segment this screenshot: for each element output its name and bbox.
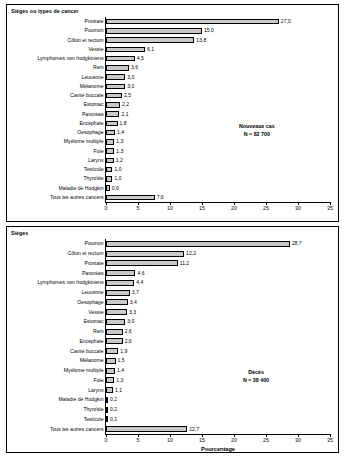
bar-category-label: Myélome multiple xyxy=(64,139,104,144)
bar-category-label: Rein xyxy=(93,329,103,334)
bar xyxy=(106,47,145,53)
bar xyxy=(106,121,118,127)
bar-value-label: 3,0 xyxy=(127,75,134,80)
bar-value-label: 15,0 xyxy=(204,28,214,33)
bar-row: Rein2,6 xyxy=(106,327,330,337)
bar xyxy=(106,65,129,71)
bar-category-label: Oesophage xyxy=(77,130,103,135)
bar xyxy=(106,397,108,403)
bar xyxy=(106,387,113,393)
bar-value-label: 1,9 xyxy=(120,349,127,354)
bar xyxy=(106,139,114,145)
bar-category-label: Leucémie xyxy=(81,75,103,80)
bar-category-label: Testicule xyxy=(84,417,104,422)
bar xyxy=(106,195,155,201)
bar-row: Rein3,6 xyxy=(106,63,330,72)
bar-category-label: Poumon xyxy=(85,241,104,246)
bar-value-label: 7,6 xyxy=(157,195,164,200)
bar-row: Myélome multiple1,4 xyxy=(106,366,330,376)
bar-value-label: 6,1 xyxy=(147,47,154,52)
bar-value-label: 3,6 xyxy=(131,65,138,70)
x-tick-label: 5 xyxy=(137,437,140,443)
bar-category-label: Vessie xyxy=(88,47,103,52)
bar xyxy=(106,176,112,182)
bar-category-label: Maladie de Hodgkin xyxy=(58,186,103,191)
x-tick-label: 10 xyxy=(167,205,173,211)
bar-row: Leucémie3,7 xyxy=(106,288,330,298)
bar-category-label: Pancréas xyxy=(82,271,104,276)
bar xyxy=(106,102,120,108)
x-axis-title-mortality: Pourcentage xyxy=(106,446,330,452)
bar-row: Estomac2,2 xyxy=(106,100,330,109)
bar-row: Pancréas2,1 xyxy=(106,110,330,119)
bar-category-label: Cavité buccale xyxy=(70,349,103,354)
bar-value-label: 1,0 xyxy=(114,167,121,172)
bar-category-label: Côlon et rectum xyxy=(68,38,104,43)
bar-category-label: Testicule xyxy=(84,167,104,172)
bar xyxy=(106,130,115,136)
bar xyxy=(106,56,135,62)
bar-category-label: Cavité buccale xyxy=(70,93,103,98)
bar-value-label: 3,3 xyxy=(129,310,136,315)
annotation-line: Décès xyxy=(243,369,269,377)
chart-title-incidence: Sièges ou types de cancer xyxy=(11,8,79,14)
bar-value-label: 2,1 xyxy=(121,112,128,117)
bar-category-label: Thyroïde xyxy=(83,176,103,181)
x-tick-label: 25 xyxy=(263,437,269,443)
bar xyxy=(106,148,114,154)
bar-value-label: 12,7 xyxy=(189,427,199,432)
bar xyxy=(106,28,202,34)
bar-value-label: 1,3 xyxy=(116,149,123,154)
bar xyxy=(106,416,108,422)
bar-category-label: Rein xyxy=(93,65,103,70)
bar-category-label: Tous les autres cancers xyxy=(50,427,104,432)
chart-title-mortality: Sièges xyxy=(11,230,28,236)
bar xyxy=(106,270,135,276)
bar-row: Poumon15,0 xyxy=(106,26,330,35)
bar-value-label: 1,5 xyxy=(118,358,125,363)
bar-row: Côlon et rectum12,2 xyxy=(106,249,330,259)
bar-value-label: 1,4 xyxy=(117,130,124,135)
bar xyxy=(106,290,130,296)
annotation-line: N = 38 400 xyxy=(243,377,269,385)
bar-category-label: Lymphomes non hodgkiniens xyxy=(37,56,103,61)
plot-area-mortality: Poumon28,7Côlon et rectum12,2Prostate11,… xyxy=(105,239,330,435)
bar-category-label: Lymphomes non hodgkiniens xyxy=(37,280,103,285)
bar-category-label: Mélanome xyxy=(80,358,104,363)
bar-category-label: Thyroïde xyxy=(83,407,103,412)
bar-category-label: Côlon et rectum xyxy=(68,251,104,256)
bar xyxy=(106,251,184,257)
bar-value-label: 1,1 xyxy=(115,388,122,393)
x-axis-incidence: 05101520253035 xyxy=(106,202,330,216)
bar xyxy=(106,309,127,315)
bar xyxy=(106,185,110,191)
bar-value-label: 4,6 xyxy=(137,271,144,276)
x-tick-label: 35 xyxy=(327,437,333,443)
bar-value-label: 3,4 xyxy=(130,300,137,305)
bar-row: Pancréas4,6 xyxy=(106,268,330,278)
bar-value-label: 1,3 xyxy=(116,139,123,144)
bar-value-label: 3,7 xyxy=(132,290,139,295)
x-axis-mortality: Pourcentage 05101520253035 xyxy=(106,434,330,448)
annotation-mortality: DécèsN = 38 400 xyxy=(243,369,269,385)
bar-rows-incidence: Prostate27,0Poumon15,0Côlon et rectum13,… xyxy=(106,17,330,202)
bar-row: Maladie de Hodgkin0,2 xyxy=(106,395,330,405)
bar-row: Testicule0,1 xyxy=(106,415,330,425)
bar xyxy=(106,338,123,344)
x-tick-label: 15 xyxy=(199,437,205,443)
bar-value-label: 1,3 xyxy=(116,378,123,383)
bar xyxy=(106,74,125,80)
x-tick-label: 30 xyxy=(295,205,301,211)
x-tick-label: 15 xyxy=(199,205,205,211)
bar-value-label: 4,5 xyxy=(137,56,144,61)
bar-value-label: 2,5 xyxy=(124,93,131,98)
bar-value-label: 27,0 xyxy=(281,19,291,24)
bar-row: Tous les autres cancers12,7 xyxy=(106,424,330,434)
bar-rows-mortality: Poumon28,7Côlon et rectum12,2Prostate11,… xyxy=(106,239,330,434)
bar-row: Thyroïde1,0 xyxy=(106,174,330,183)
bar-value-label: 1,8 xyxy=(120,121,127,126)
bar xyxy=(106,241,290,247)
bar-row: Tous les autres cancers7,6 xyxy=(106,193,330,202)
bar-value-label: 0,2 xyxy=(110,397,117,402)
bar xyxy=(106,84,125,90)
